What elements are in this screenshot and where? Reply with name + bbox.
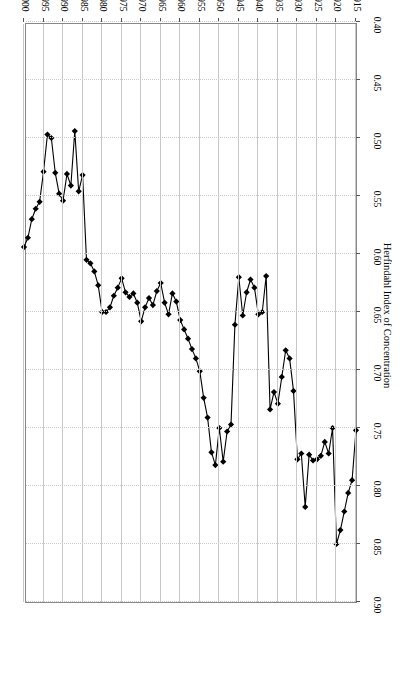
data-point-marker <box>162 300 168 306</box>
data-point-marker <box>150 302 156 308</box>
data-point-marker <box>146 295 152 301</box>
gridline-vertical <box>257 24 258 602</box>
x-tick-label: 1935 <box>274 0 284 16</box>
data-point-marker <box>165 311 171 317</box>
x-tick-label: 1990 <box>59 0 69 16</box>
gridline-vertical <box>160 24 161 602</box>
data-point-marker <box>181 326 187 332</box>
y-tick-label: 0.50 <box>372 127 382 155</box>
data-point-marker <box>353 427 359 433</box>
rotated-figure-body: 1915192019251930193519401945195019551960… <box>0 0 406 680</box>
gridline-horizontal <box>26 253 356 254</box>
data-point-marker <box>283 347 289 353</box>
data-point-marker <box>201 395 207 401</box>
series-polyline <box>24 131 356 544</box>
data-point-marker <box>142 304 148 310</box>
y-axis-tick <box>356 79 360 80</box>
gridline-horizontal <box>26 311 356 312</box>
data-point-marker <box>68 182 74 188</box>
gridline-vertical <box>179 24 180 602</box>
data-point-marker <box>52 170 58 176</box>
x-tick-label: 1930 <box>293 0 303 16</box>
gridline-horizontal <box>26 21 356 22</box>
x-tick-label: 1980 <box>98 0 108 16</box>
data-point-marker <box>91 268 97 274</box>
data-point-marker <box>337 527 343 533</box>
data-point-marker <box>267 406 273 412</box>
y-tick-label: 0.40 <box>372 11 382 39</box>
x-tick-label: 1955 <box>196 0 206 16</box>
x-tick-label: 1925 <box>313 0 323 16</box>
gridline-horizontal <box>26 485 356 486</box>
gridline-vertical <box>199 24 200 602</box>
y-axis-tick <box>356 427 360 428</box>
gridline-vertical <box>101 24 102 602</box>
x-axis-tick <box>23 18 24 22</box>
y-tick-label: 0.80 <box>372 475 382 503</box>
figure-container: 1915192019251930193519401945195019551960… <box>0 0 406 680</box>
data-point-marker <box>204 414 210 420</box>
data-point-marker <box>341 508 347 514</box>
data-point-marker <box>220 459 226 465</box>
data-point-marker <box>33 206 39 212</box>
y-tick-label: 0.60 <box>372 243 382 271</box>
y-axis-tick <box>356 195 360 196</box>
gridline-horizontal <box>26 79 356 80</box>
gridline-horizontal <box>26 543 356 544</box>
y-tick-label: 0.90 <box>372 591 382 619</box>
data-point-marker <box>224 428 230 434</box>
y-axis-tick <box>356 137 360 138</box>
data-point-marker <box>29 216 35 222</box>
gridline-horizontal <box>26 427 356 428</box>
gridline-vertical <box>140 24 141 602</box>
data-point-marker <box>111 293 117 299</box>
gridline-vertical <box>62 24 63 602</box>
gridline-horizontal <box>26 601 356 602</box>
gridline-vertical <box>23 24 24 602</box>
y-axis-tick <box>356 485 360 486</box>
x-tick-label: 1965 <box>157 0 167 16</box>
data-point-marker <box>169 290 175 296</box>
data-point-marker <box>326 450 332 456</box>
plot-area <box>25 23 357 603</box>
y-axis-tick <box>356 543 360 544</box>
x-tick-label: 2000 <box>20 0 30 16</box>
data-point-marker <box>21 244 27 250</box>
x-tick-label: 1920 <box>332 0 342 16</box>
data-point-marker <box>64 171 70 177</box>
gridline-vertical <box>43 24 44 602</box>
data-point-marker <box>287 355 293 361</box>
gridline-horizontal <box>26 137 356 138</box>
y-axis-title: Herfindahl Index of Concentration <box>382 206 393 426</box>
data-point-marker <box>25 235 31 241</box>
data-point-marker <box>345 490 351 496</box>
x-tick-label: 1995 <box>40 0 50 16</box>
y-tick-label: 0.55 <box>372 185 382 213</box>
y-axis-tick <box>356 311 360 312</box>
data-point-marker <box>189 346 195 352</box>
data-point-marker <box>72 128 78 134</box>
data-point-marker <box>240 312 246 318</box>
gridline-vertical <box>121 24 122 602</box>
x-tick-label: 1985 <box>79 0 89 16</box>
y-tick-label: 0.70 <box>372 359 382 387</box>
y-axis-tick <box>356 369 360 370</box>
gridline-vertical <box>82 24 83 602</box>
y-axis-tick <box>356 253 360 254</box>
data-point-marker <box>306 452 312 458</box>
gridline-vertical <box>355 24 356 602</box>
y-axis-tick <box>356 21 360 22</box>
x-tick-label: 1960 <box>176 0 186 16</box>
y-tick-label: 0.85 <box>372 533 382 561</box>
data-point-marker <box>247 276 253 282</box>
gridline-vertical <box>316 24 317 602</box>
data-point-marker <box>322 439 328 445</box>
y-axis-tick <box>356 601 360 602</box>
data-point-marker <box>208 449 214 455</box>
data-point-marker <box>263 273 269 279</box>
y-tick-label: 0.75 <box>372 417 382 445</box>
data-point-marker <box>302 504 308 510</box>
x-tick-label: 1950 <box>215 0 225 16</box>
gridline-horizontal <box>26 369 356 370</box>
data-series-line <box>24 22 356 602</box>
